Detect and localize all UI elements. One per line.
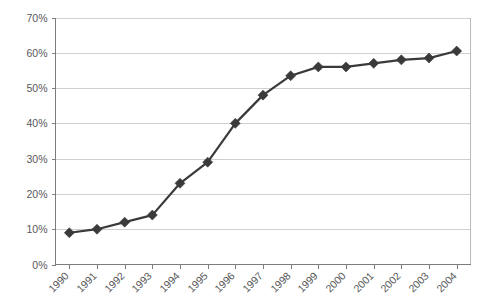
x-tick-label: 1999 — [295, 269, 320, 294]
x-tick-label: 1993 — [129, 269, 154, 294]
y-tick-label: 50% — [26, 82, 47, 94]
data-point-marker — [341, 62, 351, 72]
data-point-marker — [452, 46, 462, 56]
x-tick-label: 2002 — [378, 269, 403, 294]
line-chart: 0%10%20%30%40%50%60%70%19901991199219931… — [0, 0, 488, 308]
x-tick-label: 1995 — [185, 269, 210, 294]
y-tick-label: 30% — [26, 153, 47, 165]
y-tick-label: 40% — [26, 117, 47, 129]
x-tick-label: 2004 — [434, 269, 459, 294]
data-point-marker — [120, 217, 130, 227]
x-tick-label: 1990 — [46, 269, 71, 294]
y-axis-ticks: 0%10%20%30%40%50%60%70% — [26, 12, 55, 271]
x-tick-label: 1991 — [74, 269, 99, 294]
data-point-marker — [396, 55, 406, 65]
data-point-marker — [369, 58, 379, 68]
y-tick-label: 70% — [26, 12, 47, 24]
x-tick-label: 2000 — [323, 269, 348, 294]
x-tick-label: 1998 — [268, 269, 293, 294]
data-point-marker — [313, 62, 323, 72]
data-point-markers — [64, 46, 461, 238]
y-tick-label: 20% — [26, 188, 47, 200]
x-tick-label: 1994 — [157, 269, 182, 294]
x-tick-label: 1996 — [212, 269, 237, 294]
x-tick-label: 1992 — [102, 269, 127, 294]
x-tick-label: 2001 — [351, 269, 376, 294]
data-point-marker — [424, 53, 434, 63]
x-tick-label: 2003 — [406, 269, 431, 294]
y-tick-label: 10% — [26, 223, 47, 235]
series-line — [69, 51, 456, 233]
chart-container: 0%10%20%30%40%50%60%70%19901991199219931… — [0, 0, 488, 308]
x-tick-label: 1997 — [240, 269, 265, 294]
gridlines-group — [56, 19, 471, 230]
data-point-marker — [92, 224, 102, 234]
x-axis-ticks: 1990199119921993199419951996199719981999… — [46, 265, 459, 295]
y-tick-label: 0% — [32, 259, 47, 271]
y-tick-label: 60% — [26, 47, 47, 59]
